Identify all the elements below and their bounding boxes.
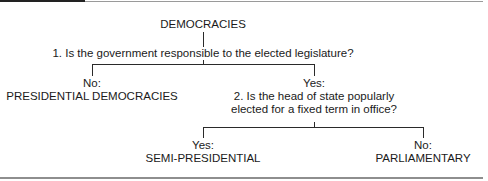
question-2-line-2: elected for a fixed term in office? bbox=[231, 103, 397, 116]
q2-right-drop bbox=[423, 127, 424, 138]
top-rule bbox=[85, 1, 483, 2]
root-node: DEMOCRACIES bbox=[160, 18, 246, 31]
q1-right-drop bbox=[314, 64, 315, 76]
question-2-line-1: 2. Is the head of state popularly bbox=[234, 90, 394, 103]
q1-left-drop bbox=[92, 64, 93, 76]
root-connector bbox=[203, 32, 204, 47]
branch2-yes-answer: Yes: bbox=[192, 139, 214, 152]
branch1-no-answer: No: bbox=[83, 77, 101, 90]
question-1: 1. Is the government responsible to the … bbox=[52, 47, 353, 60]
branch1-yes-answer: Yes: bbox=[303, 77, 325, 90]
q1-bracket bbox=[92, 64, 315, 65]
parliamentary-result: PARLIAMENTARY bbox=[375, 152, 470, 165]
q2-left-drop bbox=[203, 127, 204, 138]
semi-presidential-result: SEMI-PRESIDENTIAL bbox=[145, 152, 260, 165]
branch2-no-answer: No: bbox=[414, 139, 432, 152]
presidential-result: PRESIDENTIAL DEMOCRACIES bbox=[6, 90, 177, 103]
bottom-rule bbox=[0, 177, 483, 179]
top-rule-accent bbox=[0, 0, 85, 2]
q2-bracket bbox=[203, 127, 424, 128]
